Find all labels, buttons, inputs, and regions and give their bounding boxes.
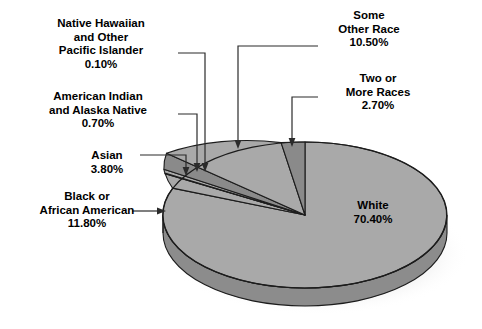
label-line: and Alaska Native [22, 104, 174, 118]
label-value: 3.80% [40, 163, 174, 177]
label-line: Pacific Islander [28, 44, 174, 58]
leader-line-some-other-race [238, 46, 318, 140]
label-line: White [330, 199, 416, 213]
label-native-hawaiian-and-other-pacific-islander: Native Hawaiian and Other Pacific Island… [28, 17, 174, 71]
label-asian: Asian 3.80% [40, 149, 174, 176]
label-line: American Indian [22, 90, 174, 104]
label-line: and Other [28, 31, 174, 45]
label-line: Native Hawaiian [28, 17, 174, 31]
label-value: 0.10% [28, 58, 174, 72]
label-two-or-more-races: Two or More Races 2.70% [322, 72, 434, 113]
label-value: 2.70% [322, 99, 434, 113]
label-value: 11.80% [8, 217, 166, 231]
label-line: More Races [322, 86, 434, 100]
label-line: Some [316, 9, 422, 23]
label-value: 10.50% [316, 36, 422, 50]
label-line: Black or [8, 190, 166, 204]
leader-line-two-or-more-races [292, 97, 318, 138]
label-some-other-race: Some Other Race 10.50% [316, 9, 422, 50]
label-american-indian-and-alaska-native: American Indian and Alaska Native 0.70% [22, 90, 174, 131]
label-line: Two or [322, 72, 434, 86]
pie-chart: Native Hawaiian and Other Pacific Island… [0, 0, 482, 329]
label-line: Other Race [316, 23, 422, 37]
label-white: White 70.40% [330, 199, 416, 226]
label-value: 0.70% [22, 117, 174, 131]
label-line: Asian [40, 149, 174, 163]
label-value: 70.40% [330, 213, 416, 227]
label-black-or-african-american: Black or African American 11.80% [8, 190, 166, 231]
label-line: African American [8, 204, 166, 218]
